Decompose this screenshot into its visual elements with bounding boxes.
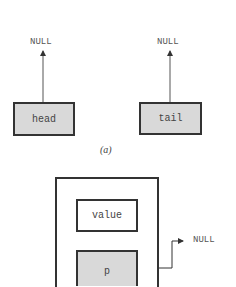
head-box: head — [13, 102, 75, 136]
caption-a: (a) — [100, 144, 112, 155]
pointer-null-label: NULL — [193, 235, 215, 245]
pointer-box: p — [76, 250, 138, 286]
tail-null-label: NULL — [157, 37, 179, 47]
head-label: head — [32, 114, 56, 125]
head-null-label: NULL — [30, 37, 52, 47]
pointer-label: p — [104, 266, 110, 277]
tail-box: tail — [139, 102, 202, 135]
value-label: value — [92, 210, 122, 221]
tail-label: tail — [158, 113, 182, 124]
value-box: value — [76, 199, 138, 232]
